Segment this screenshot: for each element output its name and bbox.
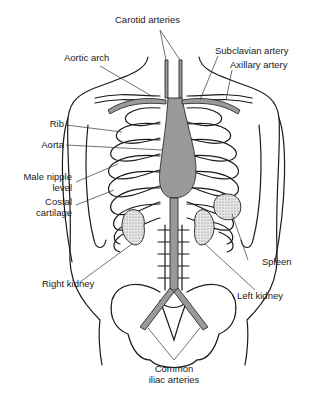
label-subclavian-artery: Subclavian artery — [215, 45, 288, 56]
heart-aorta — [160, 98, 196, 198]
right-kidney — [122, 210, 144, 245]
label-aortic-arch: Aortic arch — [64, 52, 109, 63]
label-common-iliac-arteries: Common iliac arteries — [134, 363, 214, 385]
carotid-left — [179, 60, 182, 98]
spleen — [214, 194, 241, 220]
label-costal-cartilage: Costal cartilage — [22, 196, 72, 218]
carotid-right — [165, 60, 168, 98]
abdominal-aorta — [170, 198, 178, 290]
label-rib: Rib — [46, 118, 64, 129]
pelvis-right — [111, 284, 160, 360]
label-line-1: Common — [155, 363, 194, 374]
subclavian-right — [108, 98, 166, 114]
label-right-kidney: Right kidney — [42, 278, 94, 289]
label-axillary-artery: Axillary artery — [230, 59, 288, 70]
label-line-1: Male nipple — [23, 171, 72, 182]
subclavian-left — [182, 98, 240, 114]
label-line-2: level — [52, 182, 72, 193]
clavicle-right — [95, 95, 160, 98]
label-line-2: iliac arteries — [149, 374, 200, 385]
label-left-kidney: Left kidney — [237, 290, 283, 301]
label-line-1: Costal — [45, 196, 72, 207]
label-carotid-arteries: Carotid arteries — [115, 14, 180, 25]
label-aorta: Aorta — [30, 139, 64, 150]
label-line-2: cartilage — [36, 207, 72, 218]
clavicle-left — [187, 95, 252, 98]
left-kidney — [194, 210, 214, 245]
label-male-nipple-level: Male nipple level — [10, 171, 72, 193]
pelvis-left — [187, 284, 236, 360]
label-spleen: Spleen — [262, 256, 292, 267]
